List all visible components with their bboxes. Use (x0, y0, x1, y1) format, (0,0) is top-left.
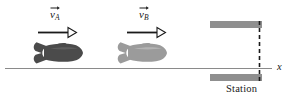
velocity-arrow-b (127, 28, 166, 38)
velocity-label-b: vB (139, 9, 148, 20)
station-bottom-bar (210, 74, 262, 81)
vector-overbar-arrow-icon (139, 5, 149, 10)
velocity-label-b-subscript: B (144, 13, 149, 22)
vector-overbar-arrow-icon (50, 5, 60, 10)
velocity-label-a-subscript: A (55, 13, 60, 22)
physics-figure-two-rockets-approaching-station: vA vB x Station (0, 0, 294, 99)
velocity-label-a-inner: vA (50, 9, 59, 20)
velocity-arrow-a-head (68, 28, 77, 38)
x-axis-label: x (277, 62, 282, 73)
station-top-bar (210, 21, 262, 28)
rocket-b (118, 42, 167, 63)
station-structure (210, 21, 262, 81)
velocity-label-a: vA (50, 9, 59, 20)
velocity-label-b-inner: vB (139, 9, 148, 20)
velocity-arrow-b-head (157, 28, 166, 38)
rocket-a (34, 42, 83, 63)
rocket-a-body (44, 44, 83, 62)
station-label: Station (226, 84, 257, 95)
rocket-b-body (128, 44, 167, 62)
velocity-arrow-a (38, 28, 77, 38)
